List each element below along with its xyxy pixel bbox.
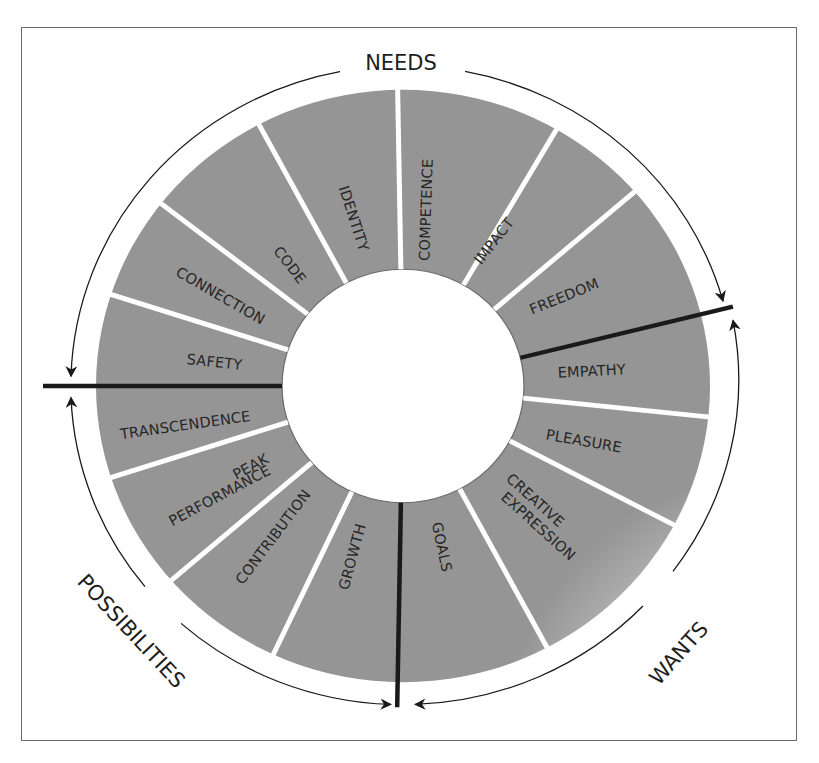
group-label-possibilities: POSSIBILITIES bbox=[72, 570, 189, 693]
inner-circle bbox=[282, 269, 524, 503]
group-label-wants: WANTS bbox=[645, 617, 714, 689]
group-label-needs: NEEDS bbox=[365, 51, 437, 75]
needs-wants-possibilities-wheel: NEEDS WANTS POSSIBILITIES COMPETENCE IMP… bbox=[0, 0, 819, 763]
